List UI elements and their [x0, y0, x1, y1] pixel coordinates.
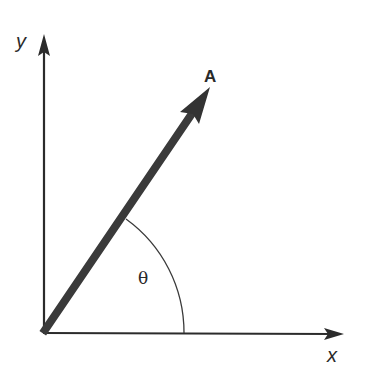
- angle-label: θ: [138, 268, 148, 288]
- y-axis-label: y: [14, 30, 27, 52]
- vector-a: [45, 87, 210, 330]
- x-axis-label: x: [326, 344, 338, 366]
- x-axis: [43, 328, 344, 340]
- vector-label: A: [204, 67, 216, 86]
- angle-arc: [126, 219, 184, 333]
- y-axis: [38, 34, 50, 333]
- vector-diagram: y x A θ: [0, 0, 367, 384]
